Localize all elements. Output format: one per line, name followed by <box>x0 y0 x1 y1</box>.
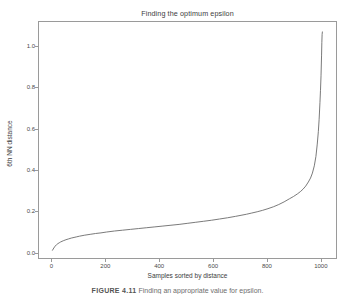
line-chart-svg <box>39 22 338 260</box>
x-tick-label: 400 <box>154 263 164 269</box>
x-axis-title: Samples sorted by distance <box>38 272 337 279</box>
y-axis-tick-labels: 0.00.20.40.60.81.0 <box>20 0 35 295</box>
x-tick-label: 200 <box>100 263 110 269</box>
y-tick-label: 0.2 <box>27 208 35 214</box>
figure-caption-label: FIGURE 4.11 <box>92 287 137 294</box>
x-tick-label: 800 <box>262 263 272 269</box>
x-tick-mark <box>213 259 214 262</box>
y-tick-label: 1.0 <box>27 43 35 49</box>
y-tick-label: 0.6 <box>27 126 35 132</box>
y-tick-label: 0.0 <box>27 250 35 256</box>
y-tick-label: 0.8 <box>27 84 35 90</box>
figure-caption: FIGURE 4.11 Finding an appropriate value… <box>0 287 355 294</box>
x-tick-label: 600 <box>208 263 218 269</box>
chart-title: Finding the optimum epsilon <box>38 9 337 18</box>
x-tick-label: 0 <box>50 263 53 269</box>
figure-container: Finding the optimum epsilon 6th NN dista… <box>0 0 355 295</box>
figure-caption-text: Finding an appropriate value for epsilon… <box>138 287 263 294</box>
x-tick-mark <box>321 259 322 262</box>
x-tick-mark <box>51 259 52 262</box>
x-tick-mark <box>159 259 160 262</box>
y-axis-title: 6th NN distance <box>6 120 13 166</box>
knn-distance-curve <box>52 32 322 250</box>
y-tick-label: 0.4 <box>27 167 35 173</box>
plot-area <box>38 21 337 259</box>
x-tick-mark <box>105 259 106 262</box>
x-tick-mark <box>267 259 268 262</box>
x-tick-label: 1000 <box>314 263 327 269</box>
